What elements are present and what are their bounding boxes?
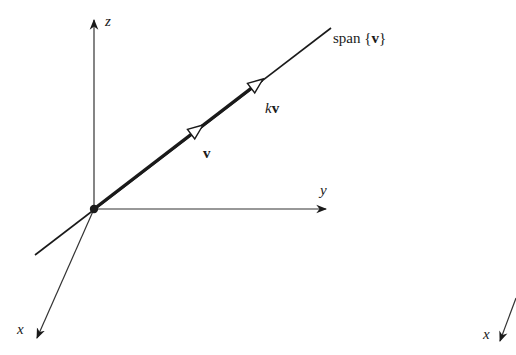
z-axis-label: z bbox=[105, 14, 111, 29]
span-prefix: span bbox=[333, 30, 361, 46]
span-close-brace: } bbox=[379, 30, 386, 46]
kv-vector: v bbox=[272, 100, 280, 116]
x-axis-label-duplicate: x bbox=[483, 327, 490, 342]
x-axis-fragment bbox=[500, 298, 516, 341]
v-label: v bbox=[203, 146, 211, 161]
kv-label: kv bbox=[265, 101, 279, 116]
kv-segment bbox=[94, 80, 262, 209]
y-axis-label: y bbox=[320, 183, 327, 198]
span-label: span {v} bbox=[333, 31, 386, 46]
x-axis bbox=[37, 209, 94, 338]
span-diagram bbox=[0, 0, 516, 355]
origin-point bbox=[90, 205, 98, 213]
kv-scalar: k bbox=[265, 100, 272, 116]
x-axis-label: x bbox=[17, 322, 24, 337]
span-vector: v bbox=[371, 30, 379, 46]
